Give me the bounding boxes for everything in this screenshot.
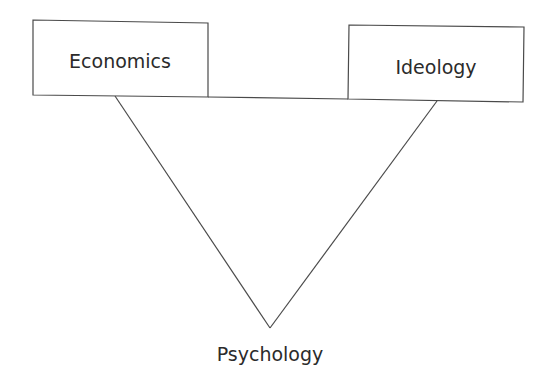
concept-triangle-diagram: Economics Ideology Psychology: [0, 0, 546, 383]
edge-ideology-psychology: [270, 101, 437, 328]
node-ideology: Ideology: [348, 25, 524, 102]
psychology-label: Psychology: [217, 343, 324, 365]
edge-economics-ideology: [208, 97, 348, 99]
edge-economics-psychology: [115, 96, 270, 328]
node-psychology: Psychology: [217, 343, 324, 365]
node-economics: Economics: [33, 20, 208, 97]
ideology-label: Ideology: [395, 56, 476, 78]
economics-label: Economics: [69, 50, 171, 72]
